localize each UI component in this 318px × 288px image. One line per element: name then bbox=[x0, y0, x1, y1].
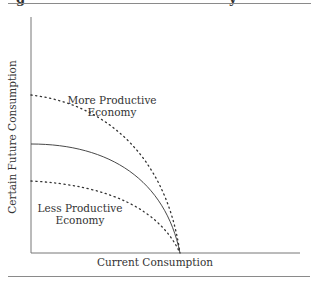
y-axis-label: Certain Future Consumption bbox=[6, 60, 18, 213]
x-axis-label: Current Consumption bbox=[90, 256, 220, 268]
less-productive-line1: Less Productive bbox=[30, 202, 130, 214]
more-productive-curve bbox=[31, 95, 180, 253]
less-productive-label: Less Productive Economy bbox=[30, 202, 130, 226]
less-productive-line2: Economy bbox=[30, 214, 130, 226]
chart-plot bbox=[0, 0, 318, 288]
bottom-rule bbox=[8, 276, 310, 277]
more-productive-label: More Productive Economy bbox=[62, 94, 162, 118]
more-productive-line1: More Productive bbox=[62, 94, 162, 106]
more-productive-line2: Economy bbox=[62, 106, 162, 118]
baseline-curve bbox=[31, 144, 180, 253]
